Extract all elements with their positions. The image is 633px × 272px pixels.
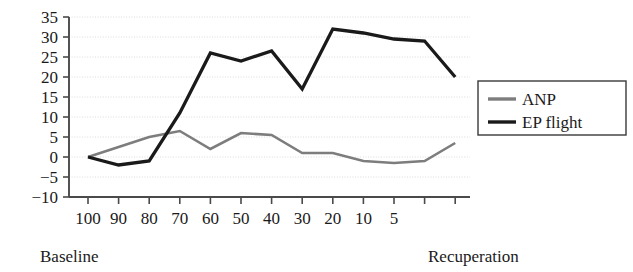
x-axis-tick-label: 10 xyxy=(355,209,372,228)
x-axis-tick-label: 80 xyxy=(141,209,158,228)
x-axis-tick-label: 30 xyxy=(294,209,311,228)
axis-caption-recuperation: Recuperation xyxy=(428,247,519,266)
y-axis-tick-label: 20 xyxy=(41,68,58,87)
series-line-anp xyxy=(88,131,455,163)
x-axis-tick-marks xyxy=(88,197,455,204)
x-axis-tick-label: 40 xyxy=(263,209,280,228)
x-axis-tick-label: 5 xyxy=(390,209,399,228)
y-axis-tick-label: −5 xyxy=(40,168,58,187)
axis-caption-baseline: Baseline xyxy=(40,247,99,266)
y-axis-tick-label: 5 xyxy=(50,128,59,147)
chart-figure: 35302520151050−5−10 10090807060504030201… xyxy=(0,0,633,272)
x-axis-tick-label: 100 xyxy=(75,209,101,228)
x-axis-tick-label: 70 xyxy=(171,209,188,228)
y-axis-tick-label: 35 xyxy=(41,8,58,27)
y-axis-tick-label: 30 xyxy=(41,28,58,47)
y-axis-tick-labels: 35302520151050−5−10 xyxy=(31,8,58,207)
y-axis-tick-label: −10 xyxy=(31,188,58,207)
x-axis-tick-label: 60 xyxy=(202,209,219,228)
x-axis-tick-labels: 1009080706050403020105 xyxy=(75,209,398,228)
legend-label-ep-flight: EP flight xyxy=(522,113,583,132)
y-axis-tick-label: 15 xyxy=(41,88,58,107)
x-axis-tick-label: 90 xyxy=(110,209,127,228)
legend-label-anp: ANP xyxy=(522,90,556,109)
y-axis-tick-label: 10 xyxy=(41,108,58,127)
chart-legend: ANP EP flight xyxy=(478,81,626,135)
line-chart-canvas: 35302520151050−5−10 10090807060504030201… xyxy=(0,0,633,272)
x-axis-tick-label: 20 xyxy=(324,209,341,228)
x-axis-tick-label: 50 xyxy=(233,209,250,228)
gridlines xyxy=(69,17,470,197)
y-axis-tick-label: 25 xyxy=(41,48,58,67)
y-axis-tick-label: 0 xyxy=(50,148,59,167)
